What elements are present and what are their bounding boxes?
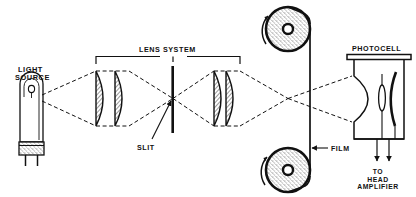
photocell-label: PHOTOCELL	[352, 44, 401, 53]
condenser-lens-2	[115, 71, 122, 126]
lens-system-bracket: LENS SYSTEM	[96, 45, 240, 64]
head-amplifier-label-line1: TO	[373, 168, 383, 175]
slit-callout: SLIT	[137, 101, 171, 152]
optical-reproducer-diagram: LIGHT SOURCE SLIT	[0, 0, 416, 197]
slit-aperture	[171, 66, 174, 133]
diagram-canvas: LIGHT SOURCE SLIT	[0, 0, 416, 197]
light-source-label-line2: SOURCE	[15, 73, 50, 82]
lower-film-reel	[261, 148, 310, 192]
photocell-tube	[347, 55, 411, 140]
objective-lens-1	[214, 71, 221, 126]
film-label: FILM	[331, 145, 350, 152]
head-amplifier-label-line3: AMPLIFIER	[357, 183, 399, 190]
output-leads	[377, 139, 389, 161]
light-ray-bundle	[42, 71, 352, 126]
slit-label: SLIT	[137, 143, 155, 152]
film-callout: FILM	[312, 145, 350, 152]
condenser-lens-1	[96, 71, 103, 126]
light-source-lamp	[19, 72, 44, 166]
head-amplifier-label: TO HEAD AMPLIFIER	[357, 168, 399, 190]
lens-system-label: LENS SYSTEM	[139, 45, 196, 54]
head-amplifier-label-line2: HEAD	[367, 176, 388, 183]
objective-lens-2	[226, 71, 233, 126]
light-source-label: LIGHT SOURCE	[15, 65, 50, 82]
